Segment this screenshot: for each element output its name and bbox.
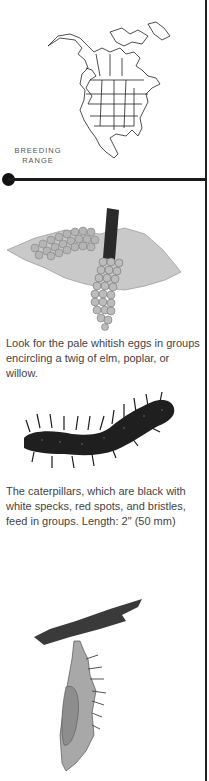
label-line-1: BREEDING [10,146,66,156]
label-line-2: RANGE [10,156,66,166]
egg-caption: Look for the pale whitish eggs in groups… [6,336,202,381]
section-divider-line [8,178,207,181]
egg-cluster-illustration [5,200,185,335]
breeding-range-label: BREEDING RANGE [10,146,66,166]
caterpillar-illustration [12,392,182,482]
chrysalis-illustration [30,595,145,775]
page-edge-rule [205,0,207,781]
caterpillar-caption: The caterpillars, which are black with w… [6,484,202,529]
